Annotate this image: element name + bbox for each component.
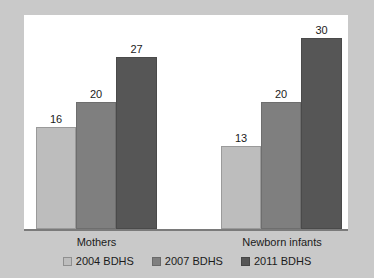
legend-item-2011-bdhs[interactable]: 2011 BDHS	[241, 255, 311, 267]
bar-newborn-infants-2004[interactable]	[221, 146, 261, 229]
category-label-newborn-infants: Newborn infants	[221, 236, 343, 249]
bar-newborn-infants-2011[interactable]	[301, 38, 342, 229]
bar-mothers-2007[interactable]	[76, 102, 116, 229]
bar-mothers-2011[interactable]	[116, 57, 157, 229]
legend-label-2004: 2004 BDHS	[76, 255, 134, 267]
legend-swatch-icon-2004	[63, 257, 72, 266]
legend-label-2007: 2007 BDHS	[165, 255, 223, 267]
legend-item-2004-bdhs[interactable]: 2004 BDHS	[63, 255, 134, 267]
legend-label-2011: 2011 BDHS	[254, 255, 311, 267]
bar-value-mothers-2004: 16	[36, 113, 76, 125]
legend-swatch-icon-2011	[241, 257, 250, 266]
category-label-mothers: Mothers	[36, 236, 157, 249]
bar-value-newborn-infants-2004: 13	[221, 132, 261, 144]
bar-value-mothers-2007: 20	[76, 88, 116, 100]
bar-value-mothers-2011: 27	[116, 43, 157, 55]
legend-item-2007-bdhs[interactable]: 2007 BDHS	[152, 255, 223, 267]
bar-value-newborn-infants-2007: 20	[261, 88, 301, 100]
bar-newborn-infants-2007[interactable]	[261, 102, 301, 229]
bar-mothers-2004[interactable]	[36, 127, 76, 229]
legend-swatch-icon-2007	[152, 257, 161, 266]
bar-value-newborn-infants-2011: 30	[301, 24, 342, 36]
chart-frame: 16 20 27 13 20 30 Mothers Newborn infant…	[0, 0, 374, 278]
chart-legend: 2004 BDHS 2007 BDHS 2011 BDHS	[0, 253, 374, 269]
